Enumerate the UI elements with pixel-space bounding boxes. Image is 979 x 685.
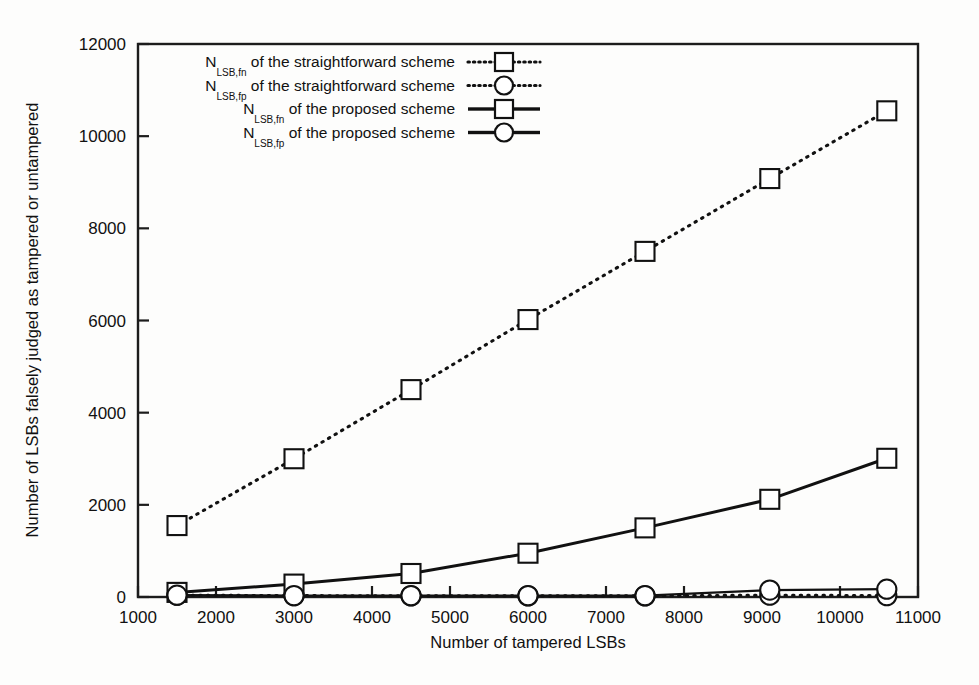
series-marker-square [402,380,421,399]
x-tick-label: 6000 [509,608,547,627]
y-tick-label: 4000 [88,404,126,423]
y-tick-label: 10000 [79,127,126,146]
legend-item: NLSB,fn of the straightforward scheme [205,53,540,78]
x-axis-tick-labels: 1000200030004000500060007000800090001000… [119,608,941,627]
series-marker-circle [760,580,779,599]
x-tick-label: 2000 [197,608,235,627]
legend-item: NLSB,fn of the proposed scheme [243,100,540,125]
series-marker-square [760,169,779,188]
y-tick-label: 12000 [79,35,126,54]
x-tick-label: 5000 [431,608,469,627]
data-series [167,580,896,606]
legend-label: NLSB,fp of the proposed scheme [243,124,455,149]
series-marker-circle [635,586,654,605]
x-tick-label: 4000 [353,608,391,627]
series-marker-square [760,490,779,509]
series-line [177,458,887,592]
y-tick-label: 0 [117,588,126,607]
x-axis-title: Number of tampered LSBs [430,633,625,651]
x-tick-label: 8000 [665,608,703,627]
legend: NLSB,fn of the straightforward schemeNLS… [205,53,540,148]
legend-label: NLSB,fp of the straightforward scheme [205,77,455,102]
legend-marker-square [495,100,513,118]
y-tick-label: 6000 [88,312,126,331]
y-axis-tick-labels: 020004000600080001000012000 [79,35,126,607]
legend-label: NLSB,fn of the proposed scheme [243,100,455,125]
series-marker-square [285,449,304,468]
data-series [168,101,897,535]
series-marker-circle [167,586,186,605]
data-series [168,449,897,602]
x-tick-label: 7000 [587,608,625,627]
x-tick-label: 10000 [816,608,863,627]
legend-label: NLSB,fn of the straightforward scheme [205,53,455,78]
legend-marker-square [495,53,513,71]
legend-marker-circle [495,124,513,142]
series-marker-square [636,242,655,261]
y-tick-label: 2000 [88,496,126,515]
x-tick-label: 9000 [743,608,781,627]
series-marker-square [636,518,655,537]
series-group [167,101,896,605]
x-tick-label: 1000 [119,608,157,627]
legend-marker-circle [495,77,513,95]
line-chart: 020004000600080001000012000 100020003000… [0,0,979,685]
y-axis-title: Number of LSBs falsely judged as tampere… [23,103,41,538]
x-tick-label: 11000 [895,608,941,627]
series-marker-circle [401,586,420,605]
series-marker-square [402,564,421,583]
figure-container: 020004000600080001000012000 100020003000… [0,0,979,685]
legend-item: NLSB,fp of the straightforward scheme [205,77,540,102]
series-marker-square [877,449,896,468]
series-marker-circle [518,586,537,605]
series-marker-circle [877,580,896,599]
y-tick-label: 8000 [88,219,126,238]
series-marker-square [519,544,538,563]
legend-item: NLSB,fp of the proposed scheme [243,124,540,149]
x-tick-label: 3000 [275,608,313,627]
series-marker-circle [284,586,303,605]
series-marker-square [168,516,187,535]
series-marker-square [519,310,538,329]
y-axis-ticks [138,44,149,597]
series-marker-square [877,101,896,120]
